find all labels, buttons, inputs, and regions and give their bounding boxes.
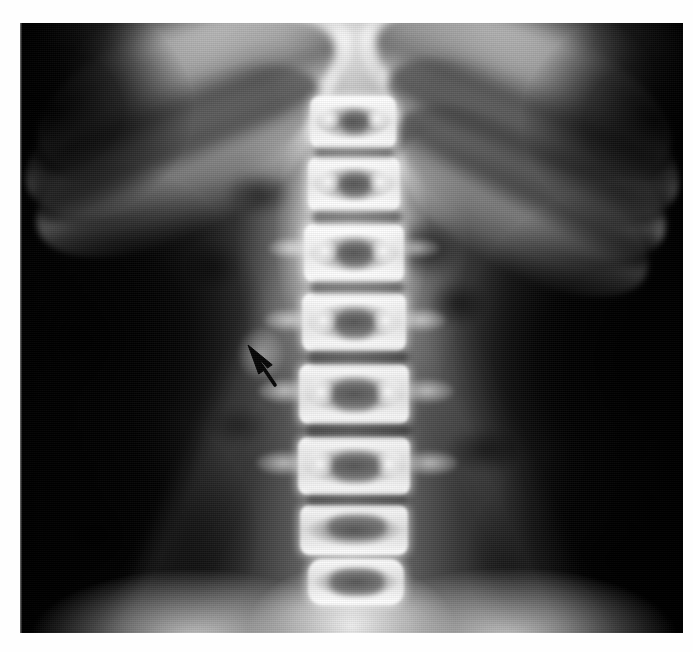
- film-edge-highlight: [20, 23, 683, 633]
- radiograph-film: [20, 23, 683, 633]
- figure-page: [0, 0, 693, 652]
